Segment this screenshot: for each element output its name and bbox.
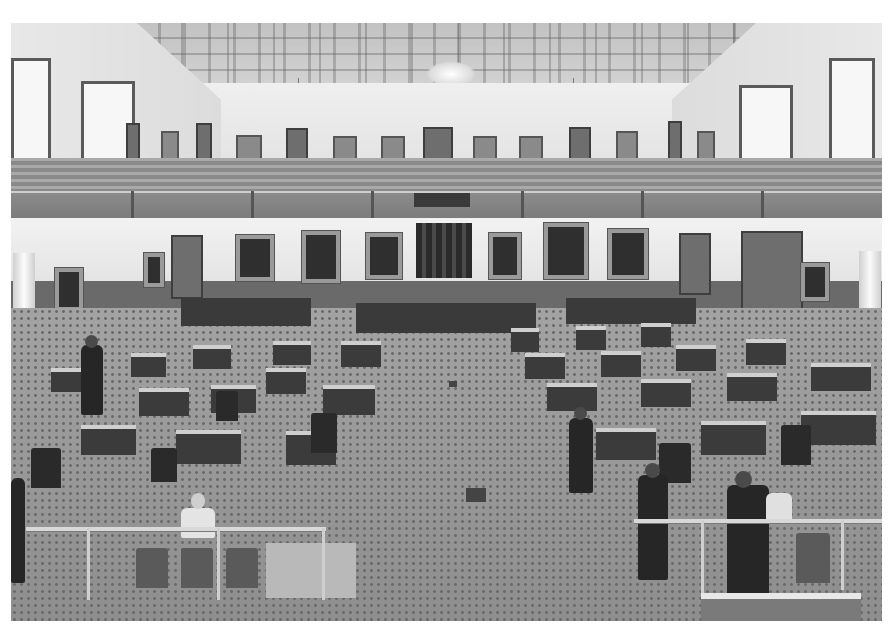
clerk-desk — [566, 298, 696, 324]
balcony-post — [371, 191, 374, 221]
person-head — [645, 463, 660, 478]
floor-vent — [449, 381, 457, 387]
balcony-post — [251, 191, 254, 221]
portrait — [801, 263, 829, 301]
senator-chair — [31, 448, 61, 488]
person-standing — [727, 485, 769, 595]
person-standing — [81, 345, 103, 415]
senator-desk — [139, 388, 189, 416]
rail-post — [841, 520, 844, 590]
senator-desk — [266, 368, 306, 394]
person-standing — [638, 475, 668, 580]
senator-desk — [576, 326, 606, 350]
senator-desk — [81, 425, 136, 455]
senator-chair — [311, 413, 337, 453]
floor-mat — [266, 543, 356, 598]
balcony-post — [641, 191, 644, 221]
rail-post — [217, 528, 220, 600]
senator-desk — [131, 353, 166, 377]
senator-desk — [601, 351, 641, 377]
portrait — [144, 253, 164, 287]
lower-door-right — [679, 233, 711, 295]
senator-desk — [811, 363, 871, 391]
person-head — [574, 407, 587, 420]
senator-desk — [193, 345, 231, 369]
senator-desk — [596, 428, 656, 460]
chamber-photo — [11, 23, 882, 621]
senator-desk — [511, 328, 539, 352]
senator-desk — [746, 339, 786, 365]
senator-desk — [641, 379, 691, 407]
senator-chair — [151, 448, 177, 482]
senator-desk — [641, 323, 671, 347]
person-head — [735, 471, 752, 488]
person-head — [191, 493, 205, 509]
window-left-1 — [11, 58, 51, 164]
lower-door-left — [171, 235, 203, 299]
presiding-rostrum — [356, 303, 536, 333]
portrait — [302, 231, 340, 283]
gallery-seating — [11, 158, 882, 193]
rail-post — [701, 520, 704, 595]
visitor-chair — [181, 548, 213, 588]
senator-desk — [273, 341, 311, 365]
senator-desk — [701, 421, 766, 455]
gallery-banner — [414, 193, 470, 207]
brass-rail-left — [26, 527, 326, 531]
senator-desk — [801, 411, 876, 445]
rostrum-canopy — [416, 223, 472, 278]
balcony-post — [131, 191, 134, 221]
person-head — [85, 335, 98, 348]
person-seated — [181, 508, 215, 538]
senator-desk — [727, 373, 777, 401]
senator-chair — [216, 391, 238, 421]
person-standing — [569, 418, 593, 493]
portrait — [489, 233, 521, 279]
portrait — [366, 233, 402, 279]
portrait — [55, 268, 83, 311]
brass-rail-right — [634, 519, 882, 523]
visitor-chair — [136, 548, 168, 588]
foreground-bench — [701, 593, 861, 621]
senator-chair — [781, 425, 811, 465]
person-standing-edge — [11, 478, 25, 583]
senator-desk — [525, 353, 565, 379]
portrait — [544, 223, 588, 279]
visitor-chair — [226, 548, 258, 588]
senator-desk — [676, 345, 716, 371]
window-right-1 — [829, 58, 875, 164]
floor-vent — [466, 488, 486, 502]
portrait — [608, 229, 648, 279]
rail-post — [87, 528, 90, 600]
secretary-desk — [181, 298, 311, 326]
visitor-chair — [796, 533, 830, 583]
rail-post — [322, 528, 325, 600]
balcony-post — [521, 191, 524, 221]
balcony-post — [761, 191, 764, 221]
portrait — [236, 235, 274, 281]
senator-desk — [341, 341, 381, 367]
senator-desk — [547, 383, 597, 411]
senator-desk — [176, 430, 241, 464]
senator-desk — [323, 385, 375, 415]
